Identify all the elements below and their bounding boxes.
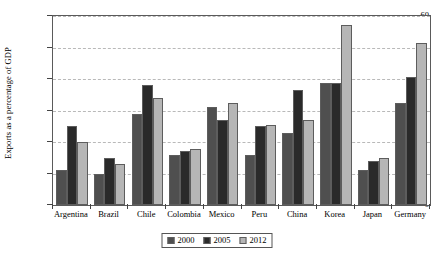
bar-group	[94, 16, 126, 205]
bar-peru-2012	[266, 125, 277, 205]
bar-chart-figure: Exports as a percentage of GDP 010203040…	[0, 0, 434, 258]
bar-group	[320, 16, 352, 205]
x-axis-tick-mark	[391, 204, 392, 209]
bar-germany-2000	[395, 103, 406, 205]
bar-china-2000	[282, 133, 293, 205]
x-axis-tick-label-germany: Germany	[394, 209, 426, 219]
bar-chile-2012	[153, 98, 164, 205]
x-axis-tick-label-brazil: Brazil	[98, 209, 119, 219]
bar-colombia-2005	[180, 151, 191, 205]
bar-peru-2000	[245, 155, 256, 205]
x-axis-tick-label-peru: Peru	[252, 209, 268, 219]
bar-argentina-2005	[67, 126, 78, 205]
bar-korea-2012	[341, 25, 352, 205]
y-axis-title-text: Exports as a percentage of GDP	[3, 47, 13, 159]
bar-japan-2005	[368, 161, 379, 205]
legend-swatch-icon	[204, 237, 211, 244]
bar-group	[395, 16, 427, 205]
bar-japan-2012	[379, 158, 390, 205]
legend-item-2005[interactable]: 2005	[204, 235, 231, 245]
x-axis-tick-mark	[278, 204, 279, 209]
chart-legend: 200020052012	[162, 233, 273, 248]
plot-area	[52, 15, 431, 206]
bar-korea-2005	[331, 83, 342, 205]
y-axis-title: Exports as a percentage of GDP	[0, 0, 16, 205]
bar-groups	[53, 16, 430, 205]
bar-group	[282, 16, 314, 205]
legend-item-2012[interactable]: 2012	[240, 235, 267, 245]
bar-mexico-2012	[228, 103, 239, 205]
x-axis-tick-mark	[165, 204, 166, 209]
x-axis-tick-mark	[429, 204, 430, 209]
bar-chile-2005	[142, 85, 153, 205]
legend-label: 2000	[178, 235, 195, 245]
x-axis-tick-label-japan: Japan	[363, 209, 382, 219]
legend-item-2000[interactable]: 2000	[168, 235, 195, 245]
bar-brazil-2000	[94, 174, 105, 206]
x-axis-tick-label-mexico: Mexico	[209, 209, 235, 219]
bar-group	[56, 16, 88, 205]
bar-germany-2012	[416, 43, 427, 205]
x-axis-tick-mark	[241, 204, 242, 209]
legend-label: 2012	[250, 235, 267, 245]
bar-peru-2005	[255, 126, 266, 205]
x-axis-tick-mark	[354, 204, 355, 209]
bar-group	[169, 16, 201, 205]
bar-china-2005	[293, 90, 304, 205]
legend-label: 2005	[214, 235, 231, 245]
bar-mexico-2005	[217, 120, 228, 205]
bar-group	[132, 16, 164, 205]
x-axis-tick-mark	[52, 204, 53, 209]
bar-china-2012	[303, 120, 314, 205]
bar-group	[358, 16, 390, 205]
bar-argentina-2012	[77, 142, 88, 205]
legend-swatch-icon	[168, 237, 175, 244]
bar-colombia-2000	[169, 155, 180, 205]
bar-chile-2000	[132, 114, 143, 205]
bar-argentina-2000	[56, 170, 67, 205]
bar-colombia-2012	[190, 149, 201, 205]
x-axis-tick-mark	[316, 204, 317, 209]
x-axis-tick-mark	[127, 204, 128, 209]
x-axis-tick-label-chile: Chile	[137, 209, 155, 219]
x-axis-tick-label-argentina: Argentina	[54, 209, 88, 219]
bar-brazil-2005	[104, 158, 115, 205]
x-axis-tick-mark	[203, 204, 204, 209]
bar-germany-2005	[406, 77, 417, 205]
bar-group	[207, 16, 239, 205]
bar-brazil-2012	[115, 164, 126, 205]
bar-group	[245, 16, 277, 205]
x-axis-tick-label-china: China	[287, 209, 307, 219]
bar-korea-2000	[320, 83, 331, 205]
x-axis-tick-label-korea: Korea	[324, 209, 345, 219]
bar-japan-2000	[358, 170, 369, 205]
bar-mexico-2000	[207, 107, 218, 205]
legend-swatch-icon	[240, 237, 247, 244]
x-axis-tick-mark	[90, 204, 91, 209]
x-axis-tick-label-colombia: Colombia	[167, 209, 201, 219]
